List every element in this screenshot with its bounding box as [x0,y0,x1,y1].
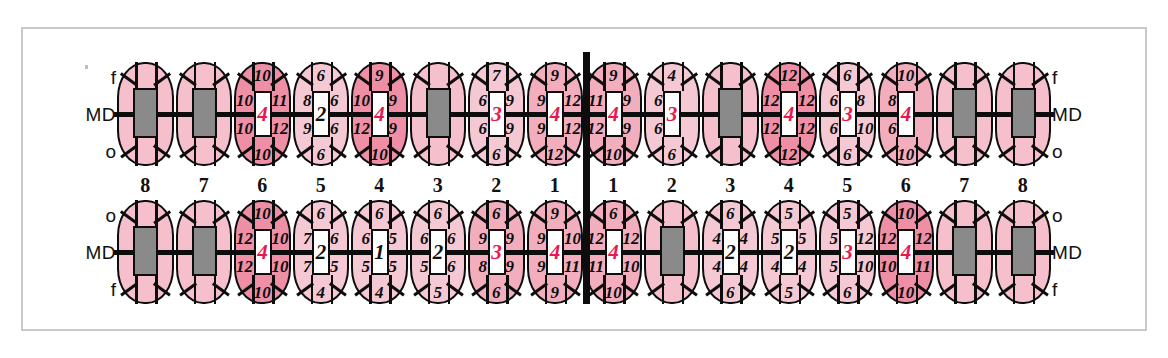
tooth-lower-7[interactable] [175,196,234,308]
tooth-upper-4[interactable]: 9101012994 [350,58,409,170]
mobility-value-box[interactable]: 4 [546,91,564,137]
tooth-number-label: 2 [467,174,526,197]
pocket-depth-mesio-lingual: 12 [231,258,253,275]
tooth-upper-2[interactable]: 46663 [643,58,702,170]
tooth-upper-7[interactable] [935,58,994,170]
tooth-lower-3[interactable]: 6644442 [701,196,760,308]
tooth-lower-8[interactable] [116,196,175,308]
missing-tooth-marker [952,88,977,138]
mobility-value-box[interactable]: 3 [488,229,506,275]
pocket-depth-mesio-lingual: 4 [699,258,721,275]
missing-tooth-marker [192,88,217,138]
pocket-depth-mesio-buccal: 4 [699,230,721,247]
tooth-number-label: 6 [233,174,292,197]
tooth-lower-1[interactable]: 999910114 [526,196,585,308]
pocket-depth-buccal: 9 [350,67,409,84]
tooth-upper-6[interactable]: 1010864 [877,58,936,170]
pocket-depth-mesio-buccal: 10 [348,92,370,109]
tooth-upper-1[interactable]: 9101112994 [584,58,643,170]
pocket-depth-buccal: 5 [818,205,877,222]
pocket-depth-lingual: 12 [526,146,585,163]
tooth-upper-5[interactable]: 66668103 [818,58,877,170]
upper-left-legend: f MD o [60,58,116,170]
tooth-number-label: 4 [350,174,409,197]
tooth-lower-8[interactable] [994,196,1053,308]
lower-right-legend-o: o [1052,206,1108,225]
tooth-upper-3[interactable] [409,58,468,170]
tooth-lower-5[interactable]: 565512103 [818,196,877,308]
tooth-lower-1[interactable]: 610121112104 [584,196,643,308]
lower-left-legend: o MD f [60,196,116,308]
tooth-upper-2[interactable]: 7666993 [467,58,526,170]
mobility-value-box[interactable]: 3 [488,91,506,137]
tooth-upper-8[interactable] [116,58,175,170]
tooth-number-label: 5 [818,174,877,197]
mobility-value-box[interactable]: 4 [897,229,915,275]
mobility-value-box[interactable]: 4 [371,91,389,137]
pocket-depth-buccal: 6 [409,205,468,222]
pocket-depth-lingual: 10 [584,146,643,163]
mobility-value-box[interactable]: 2 [312,229,330,275]
mobility-value-box[interactable]: 2 [429,229,447,275]
pocket-depth-mesio-buccal: 9 [524,92,546,109]
tooth-lower-4[interactable]: 6465551 [350,196,409,308]
pocket-depth-buccal: 6 [292,67,351,84]
upper-left-legend-f: f [60,68,116,87]
missing-tooth-marker [952,226,977,276]
tooth-upper-1[interactable]: 9129912124 [526,58,585,170]
pocket-depth-mesio-buccal: 5 [816,230,838,247]
pocket-depth-buccal: 12 [760,67,819,84]
tooth-number-label: 3 [701,174,760,197]
tooth-upper-6[interactable]: 1010101011124 [233,58,292,170]
mobility-value-box[interactable]: 3 [839,229,857,275]
tooth-upper-5[interactable]: 6689662 [292,58,351,170]
mobility-value-box[interactable]: 4 [780,91,798,137]
pocket-depth-mesio-buccal: 6 [465,92,487,109]
tooth-lower-4[interactable]: 5554542 [760,196,819,308]
mobility-value-box[interactable]: 4 [897,91,915,137]
mobility-value-box[interactable]: 4 [546,229,564,275]
pocket-depth-buccal: 10 [877,67,936,84]
mobility-value-box[interactable]: 4 [605,91,623,137]
pocket-depth-mesio-lingual: 9 [290,120,312,137]
pocket-depth-mesio-buccal: 9 [465,230,487,247]
pocket-depth-lingual: 4 [292,284,351,301]
missing-tooth-marker [426,88,451,138]
pocket-depth-lingual: 10 [877,146,936,163]
mobility-value-box[interactable]: 3 [839,91,857,137]
pocket-depth-mesio-lingual: 5 [407,258,429,275]
tooth-lower-2[interactable] [643,196,702,308]
tooth-lower-5[interactable]: 6477652 [292,196,351,308]
mobility-value-box[interactable]: 3 [663,91,681,137]
tooth-lower-7[interactable] [935,196,994,308]
mobility-value-box[interactable]: 2 [722,229,740,275]
mobility-value-box[interactable]: 4 [605,229,623,275]
tooth-upper-4[interactable]: 1212121212124 [760,58,819,170]
mobility-value-box[interactable]: 2 [312,91,330,137]
tooth-upper-7[interactable] [175,58,234,170]
tooth-number-label: 1 [526,174,585,197]
mobility-value-box[interactable]: 4 [254,229,272,275]
pocket-depth-disto-buccal: 12 [915,230,939,247]
tooth-upper-3[interactable] [701,58,760,170]
tooth-lower-2[interactable]: 6698993 [467,196,526,308]
tooth-lower-6[interactable]: 1010121012114 [877,196,936,308]
tooth-number-label: 6 [877,174,936,197]
pocket-depth-lingual: 6 [292,146,351,163]
mobility-value-box[interactable]: 4 [254,91,272,137]
pocket-depth-lingual: 10 [877,284,936,301]
lower-left-legend-md: MD [60,243,116,262]
mobility-value-box[interactable]: 1 [371,229,389,275]
pocket-depth-disto-lingual: 10 [623,258,647,275]
pocket-depth-buccal: 9 [526,205,585,222]
pocket-depth-mesio-buccal: 6 [348,230,370,247]
tooth-upper-8[interactable] [994,58,1053,170]
pocket-depth-mesio-lingual: 4 [758,258,780,275]
pocket-depth-lingual: 10 [233,146,292,163]
mobility-value-box[interactable]: 2 [780,229,798,275]
pocket-depth-lingual: 6 [818,146,877,163]
pocket-depth-mesio-lingual: 11 [582,258,604,275]
tooth-lower-3[interactable]: 6565662 [409,196,468,308]
pocket-depth-lingual: 10 [350,146,409,163]
tooth-lower-6[interactable]: 1010121210104 [233,196,292,308]
